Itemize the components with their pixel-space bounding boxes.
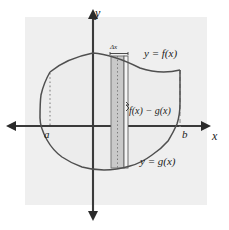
lower-curve-label: y = g(x) (140, 156, 176, 167)
upper-curve-label: y = f(x) (144, 48, 177, 59)
y-axis-label: y (95, 7, 100, 19)
strip-edge-bar (124, 56, 128, 168)
x-axis-left-arrow (6, 121, 16, 131)
y-axis-bottom-arrow (88, 211, 98, 221)
figure-container: y x a b y = f(x) y = g(x) f(x) − g(x) Δx (0, 0, 229, 230)
left-limit-label: a (44, 129, 50, 140)
delta-x-label: Δx (110, 44, 117, 51)
area-between-curves-plot (0, 0, 229, 230)
x-axis-label: x (212, 130, 217, 142)
right-limit-label: b (182, 129, 188, 140)
strip-height-label: f(x) − g(x) (129, 106, 171, 116)
